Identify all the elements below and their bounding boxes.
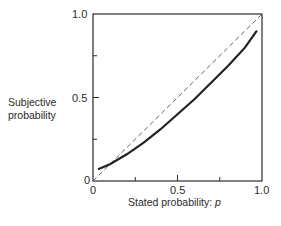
x-tick-0.5: 0.5	[170, 184, 185, 196]
y-axis-label-line2: probability	[8, 109, 70, 122]
x-axis-label-text: Stated probability:	[128, 196, 215, 208]
chart: 1.0 0.5 0 0 0.5 1.0 Subjective probabili…	[0, 0, 281, 226]
identity-dashed-line	[93, 14, 262, 181]
y-axis-label: Subjective probability	[8, 96, 70, 122]
x-tick-0: 0	[90, 184, 96, 196]
x-axis-variable: p	[215, 196, 221, 208]
x-axis-label: Stated probability: p	[128, 196, 221, 208]
y-tick-1.0: 1.0	[72, 8, 87, 20]
y-axis-label-line1: Subjective	[8, 96, 70, 109]
y-tick-0.5: 0.5	[72, 92, 87, 104]
subjective-probability-curve	[98, 31, 257, 170]
x-tick-1.0: 1.0	[254, 184, 269, 196]
